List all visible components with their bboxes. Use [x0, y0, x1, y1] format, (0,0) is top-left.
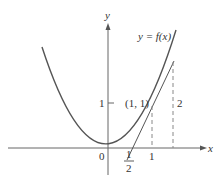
x-tick-label-1: 1: [149, 150, 155, 162]
x-tick-half-numerator: 1: [126, 148, 132, 160]
origin-label: 0: [99, 150, 105, 162]
parabola-curve: [42, 30, 176, 144]
curve-label-text: y = f(x): [137, 30, 171, 43]
y-axis-label: y: [104, 9, 110, 21]
rise-label: 2: [177, 97, 183, 109]
x-axis-arrow-icon: [200, 146, 207, 151]
tangent-line: [127, 61, 174, 160]
y-tick-label: 1: [99, 97, 105, 109]
tangent-line-diagram: y x y = f(x) 0 1 (1, 1) 2 1 1 2: [0, 0, 219, 183]
curve-label: y = f(x): [137, 30, 171, 43]
x-axis-label: x: [207, 142, 213, 154]
y-axis-arrow-icon: [106, 23, 111, 30]
point-label: (1, 1): [125, 97, 149, 110]
x-tick-half-denominator: 2: [126, 162, 132, 174]
